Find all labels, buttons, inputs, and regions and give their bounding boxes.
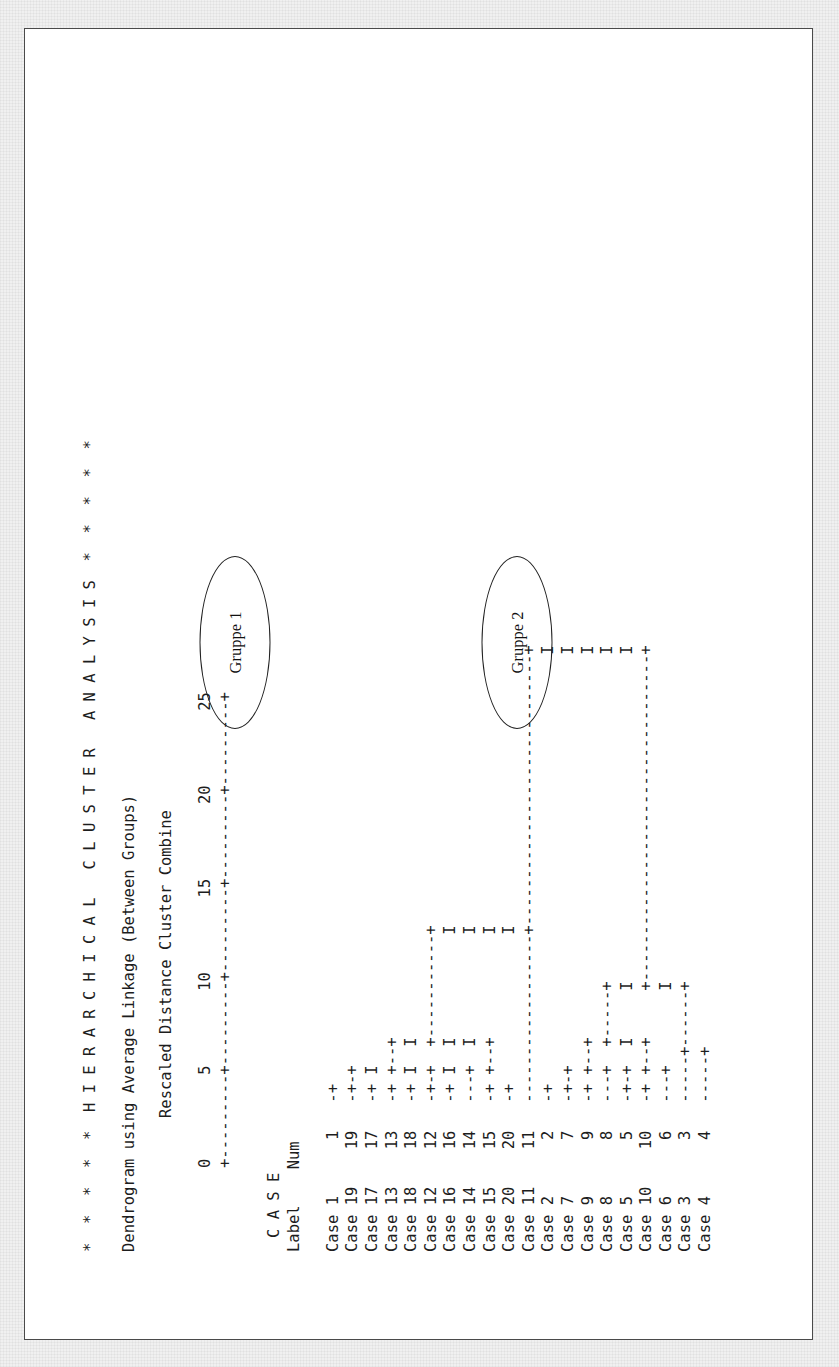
row-case-num: 1 <box>323 1131 341 1178</box>
row-case-num: 9 <box>578 1131 596 1178</box>
row-case-label: Case 6 <box>656 1177 674 1252</box>
spss-output-sheet: * * * * * H I E R A R C H I C A L C L U … <box>24 28 813 1340</box>
row-case-num: 13 <box>382 1131 400 1178</box>
row-branch-art: ---+ +-----+ I <box>597 645 615 1130</box>
dendrogram-row: Case 7 7 -+-+ I <box>558 645 578 1252</box>
dendrogram-row: Case 9 9 -+ +--+ I <box>578 645 598 1252</box>
row-case-label: Case 20 <box>499 1177 517 1252</box>
dendrogram-row: Case 14 14 ---+ I I <box>460 645 480 1252</box>
dendrogram-plot: C A S E LabelNum Case 1 1 -+Case 19 19 -… <box>264 645 715 1252</box>
dendrogram-row: Case 8 8 ---+ +-----+ I <box>597 645 617 1252</box>
report-header: * * * * * H I E R A R C H I C A L C L U … <box>80 440 139 1252</box>
row-branch-art: -----+------+ <box>675 981 693 1130</box>
row-case-label: Case 9 <box>578 1177 596 1252</box>
row-case-num: 10 <box>636 1131 654 1178</box>
row-case-num: 18 <box>401 1131 419 1178</box>
rotated-content-wrapper: * * * * * H I E R A R C H I C A L C L U … <box>24 28 813 1340</box>
axis-area: Rescaled Distance Cluster Combine 0 5 10… <box>156 692 234 1252</box>
label-header: Label <box>284 1205 302 1252</box>
row-case-num: 3 <box>675 1131 693 1178</box>
dendrogram-row: Case 19 19 -+-+ <box>342 645 362 1252</box>
annotation-ellipse-gruppe-2: Gruppe 2 <box>481 556 552 729</box>
dendrogram-row: Case 2 2 -+ I <box>538 645 558 1252</box>
row-branch-art: -+ +--+ I <box>578 645 596 1130</box>
dendrogram-row: Case 16 16 -+ I I I <box>440 645 460 1252</box>
row-case-num: 4 <box>695 1131 713 1178</box>
row-branch-art: -+ +--+ <box>382 1037 400 1130</box>
annotation-label-gruppe-1: Gruppe 1 <box>225 612 245 674</box>
row-case-label: Case 10 <box>636 1177 654 1252</box>
row-case-label: Case 14 <box>460 1177 478 1252</box>
dendrogram-row: Case 17 17 -+ I <box>362 645 382 1252</box>
dendrogram-row: Case 11 11 ------------------+----------… <box>519 645 539 1252</box>
row-branch-art: ---+ I <box>656 981 674 1130</box>
row-branch-art: -+ +--+ +-------------------------------… <box>636 645 654 1130</box>
row-case-label: Case 8 <box>597 1177 615 1252</box>
row-case-label: Case 3 <box>675 1177 693 1252</box>
row-branch-art: -+ <box>323 1084 341 1131</box>
row-case-label: Case 1 <box>323 1177 341 1252</box>
num-header: Num <box>284 1141 302 1205</box>
row-case-num: 14 <box>460 1131 478 1178</box>
row-branch-art: -+-+ I <box>558 645 576 1130</box>
row-case-label: Case 18 <box>401 1177 419 1252</box>
analysis-banner: * * * * * H I E R A R C H I C A L C L U … <box>80 440 100 1252</box>
row-case-label: Case 13 <box>382 1177 400 1252</box>
axis-title: Rescaled Distance Cluster Combine <box>156 692 176 1252</box>
row-branch-art: -+-+ <box>342 1065 360 1130</box>
row-branch-art: -+ I I <box>401 1037 419 1130</box>
dendrogram-row: Case 10 10 -+ +--+ +--------------------… <box>636 645 656 1252</box>
dendrogram-row: Case 20 20 -+ I <box>499 645 519 1252</box>
row-branch-art: -----+ <box>695 1047 713 1131</box>
dendrogram-row: Case 15 15 -+ +--+ I <box>480 645 500 1252</box>
dendrogram-row: Case 13 13 -+ +--+ <box>382 645 402 1252</box>
row-branch-art: -+-+ +-----------+ <box>421 925 439 1130</box>
row-branch-art: -+ I <box>499 925 517 1130</box>
dendrogram-row: Case 1 1 -+ <box>323 645 343 1252</box>
row-case-num: 8 <box>597 1131 615 1178</box>
row-case-num: 19 <box>342 1131 360 1178</box>
row-case-label: Case 12 <box>421 1177 439 1252</box>
row-case-num: 15 <box>480 1131 498 1178</box>
row-case-label: Case 15 <box>480 1177 498 1252</box>
row-case-num: 7 <box>558 1131 576 1178</box>
row-case-label: Case 4 <box>695 1177 713 1252</box>
row-branch-art: ---+ I I <box>460 925 478 1130</box>
row-case-num: 17 <box>362 1131 380 1178</box>
row-branch-art: -+ I <box>362 1065 380 1130</box>
row-branch-art: -+ +--+ I <box>480 925 498 1130</box>
dendrogram-row: Case 6 6 ---+ I <box>656 645 676 1252</box>
dendrogram-row: Case 3 3 -----+------+ <box>675 645 695 1252</box>
row-case-num: 12 <box>421 1131 439 1178</box>
row-case-num: 6 <box>656 1131 674 1178</box>
row-branch-art: -+ I <box>538 645 556 1130</box>
row-case-num: 11 <box>519 1131 537 1178</box>
row-case-num: 16 <box>440 1131 458 1178</box>
case-header: C A S E <box>264 1173 282 1238</box>
column-header-line: LabelNum <box>284 645 304 1252</box>
row-case-label: Case 17 <box>362 1177 380 1252</box>
dendrogram-row: Case 5 5 -+-+ I I I <box>617 645 637 1252</box>
row-case-label: Case 7 <box>558 1177 576 1252</box>
row-branch-art: -+ I I I <box>440 925 458 1130</box>
dendrogram-rows: Case 1 1 -+Case 19 19 -+-+Case 17 17 -+ … <box>323 645 715 1252</box>
row-case-label: Case 2 <box>538 1177 556 1252</box>
document-page: * * * * * H I E R A R C H I C A L C L U … <box>24 28 813 1340</box>
axis-tick-labels: 0 5 10 15 20 25 <box>195 692 215 1252</box>
dendrogram-row: Case 4 4 -----+ <box>695 645 715 1252</box>
row-case-num: 20 <box>499 1131 517 1178</box>
row-case-label: Case 5 <box>617 1177 635 1252</box>
method-line: Dendrogram using Average Linkage (Betwee… <box>119 440 139 1252</box>
case-header-line: C A S E <box>264 645 284 1252</box>
row-branch-art: -+-+ I I I <box>617 645 635 1130</box>
annotation-ellipse-gruppe-1: Gruppe 1 <box>199 556 270 729</box>
row-case-label: Case 11 <box>519 1177 537 1252</box>
row-case-num: 2 <box>538 1131 556 1178</box>
axis-rule: +---------+---------+---------+---------… <box>215 692 235 1252</box>
dendrogram-row: Case 12 12 -+-+ +-----------+ <box>421 645 441 1252</box>
dendrogram-row: Case 18 18 -+ I I <box>401 645 421 1252</box>
row-case-label: Case 16 <box>440 1177 458 1252</box>
row-case-num: 5 <box>617 1131 635 1178</box>
annotation-label-gruppe-2: Gruppe 2 <box>507 612 527 674</box>
row-case-label: Case 19 <box>342 1177 360 1252</box>
